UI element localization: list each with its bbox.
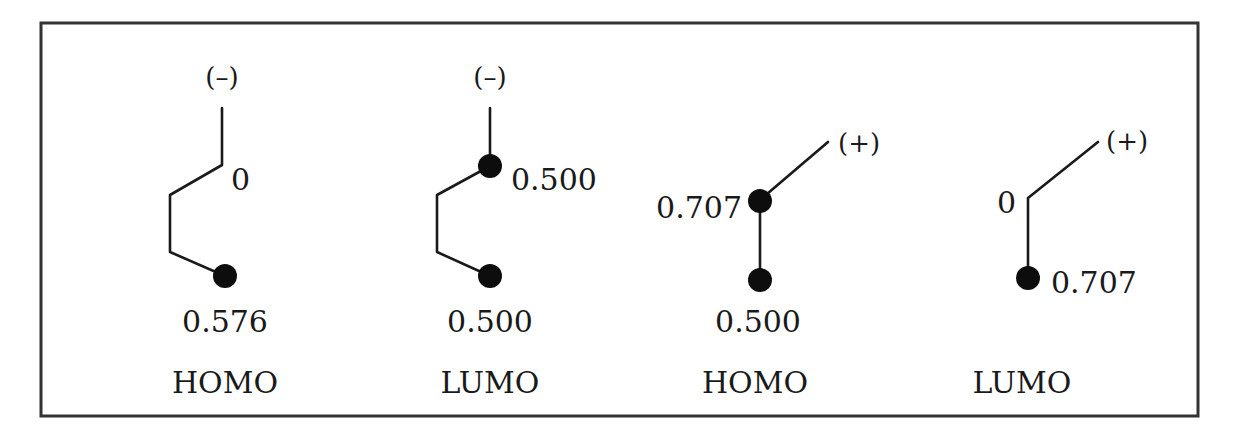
orbital-label: LUMO (441, 365, 540, 400)
terminal-sign-label: (–) (205, 62, 238, 92)
upper-coefficient: 0 (997, 185, 1016, 220)
orbital-label: HOMO (172, 365, 278, 400)
upper-coefficient: 0 (231, 162, 250, 197)
atom-dot (748, 268, 772, 292)
chain-bond (760, 142, 828, 280)
diagram-homo-negative: (–) 0 0.576 HOMO (170, 62, 278, 400)
lower-coefficient: 0.576 (182, 304, 268, 339)
atom-dot (213, 264, 237, 288)
lower-coefficient: 0.500 (447, 304, 533, 339)
lower-coefficient: 0.500 (715, 304, 801, 339)
atom-dot (1016, 266, 1040, 290)
upper-coefficient: 0.707 (656, 190, 742, 225)
diagram-lumo-positive: (+) 0 0.707 LUMO (973, 126, 1149, 400)
orbital-coefficient-figure: (–) 0 0.576 HOMO (–) 0.500 0.500 LUMO (+… (0, 0, 1240, 437)
diagram-homo-positive: (+) 0.707 0.500 HOMO (656, 128, 880, 400)
atom-dot (748, 189, 772, 213)
atom-dot (478, 154, 502, 178)
lower-coefficient: 0.707 (1051, 265, 1137, 300)
orbital-label: LUMO (973, 365, 1072, 400)
terminal-sign-label: (+) (838, 128, 880, 158)
atom-dot (478, 264, 502, 288)
terminal-sign-label: (–) (473, 62, 506, 92)
terminal-sign-label: (+) (1106, 126, 1148, 156)
orbital-label: HOMO (702, 365, 808, 400)
chain-bond (170, 108, 225, 276)
upper-coefficient: 0.500 (511, 162, 597, 197)
chain-bond (437, 108, 490, 276)
chain-bond (1028, 142, 1098, 278)
diagram-lumo-negative: (–) 0.500 0.500 LUMO (437, 62, 597, 400)
